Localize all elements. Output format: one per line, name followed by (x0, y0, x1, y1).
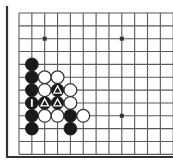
black-stone[interactable] (25, 71, 38, 84)
star-point (43, 37, 47, 41)
white-stone[interactable] (38, 84, 51, 97)
white-stone[interactable] (51, 109, 64, 122)
white-stone[interactable] (77, 109, 90, 122)
white-stone[interactable] (64, 84, 77, 97)
white-stone[interactable] (51, 71, 64, 84)
stone-black[interactable] (64, 122, 77, 135)
black-stone[interactable] (25, 122, 38, 135)
white-stone[interactable] (38, 109, 51, 122)
stone-white[interactable] (64, 97, 77, 110)
stone-white[interactable] (38, 71, 51, 84)
stone-black-triangle-marked[interactable] (51, 97, 64, 110)
stone-white[interactable] (51, 71, 64, 84)
go-board-diagram (0, 0, 173, 165)
stone-black[interactable] (25, 84, 38, 97)
stone-black[interactable] (25, 109, 38, 122)
stone-black[interactable] (25, 122, 38, 135)
stone-black[interactable] (25, 58, 38, 71)
star-point (120, 37, 124, 41)
go-board-canvas[interactable] (0, 0, 173, 165)
stone-black-triangle-marked[interactable] (38, 97, 51, 110)
black-stone[interactable] (25, 58, 38, 71)
stone-black-bar-marked[interactable] (25, 97, 38, 110)
white-stone[interactable] (64, 97, 77, 110)
white-stone[interactable] (38, 71, 51, 84)
stone-black[interactable] (25, 71, 38, 84)
black-stone[interactable] (64, 122, 77, 135)
black-stone[interactable] (64, 109, 77, 122)
black-stone[interactable] (25, 109, 38, 122)
stone-white[interactable] (38, 84, 51, 97)
star-point (120, 114, 124, 118)
stone-white[interactable] (51, 109, 64, 122)
stone-white[interactable] (77, 109, 90, 122)
black-stone[interactable] (25, 84, 38, 97)
stone-black-triangle-marked[interactable] (51, 84, 64, 97)
stone-white[interactable] (64, 84, 77, 97)
stone-black[interactable] (64, 109, 77, 122)
stone-white[interactable] (38, 109, 51, 122)
